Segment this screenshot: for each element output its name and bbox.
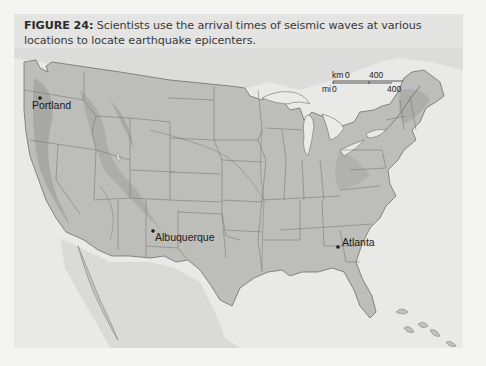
svg-text:Portland: Portland — [32, 99, 71, 111]
figure-label: FIGURE 24: — [24, 19, 93, 32]
city-marker-icon — [336, 245, 340, 249]
city-albuquerque: Albuquerque — [151, 229, 215, 243]
city-atlanta: Atlanta — [336, 236, 375, 249]
svg-text:0: 0 — [332, 84, 337, 94]
svg-text:Albuquerque: Albuquerque — [155, 231, 215, 243]
svg-text:mi: mi — [322, 84, 331, 94]
svg-text:km: km — [332, 70, 343, 80]
city-portland: Portland — [32, 96, 71, 111]
figure-panel: km 0 400 mi 0 400 Portland Albuquerque A… — [14, 14, 463, 348]
svg-text:400: 400 — [369, 70, 383, 80]
us-map: km 0 400 mi 0 400 Portland Albuquerque A… — [14, 14, 463, 348]
svg-text:400: 400 — [387, 84, 401, 94]
figure-caption: FIGURE 24: Scientists use the arrival ti… — [24, 18, 456, 48]
svg-text:Atlanta: Atlanta — [342, 236, 375, 248]
svg-text:0: 0 — [345, 70, 350, 80]
